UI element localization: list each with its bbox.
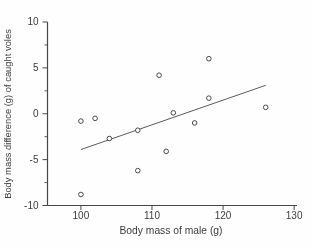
data-point bbox=[135, 168, 140, 173]
data-point-group bbox=[79, 56, 268, 196]
y-tick-label: 5 bbox=[33, 62, 39, 73]
data-point bbox=[171, 111, 176, 116]
data-point bbox=[107, 136, 112, 141]
x-tick-label: 120 bbox=[215, 210, 232, 221]
data-point bbox=[157, 73, 162, 78]
y-tick-label: -10 bbox=[24, 200, 39, 211]
y-tick-label: -5 bbox=[30, 154, 39, 165]
axis-tick-labels: 1050-5-10100110120130 bbox=[24, 16, 303, 221]
data-point bbox=[135, 128, 140, 133]
data-point bbox=[93, 116, 98, 121]
x-tick-label: 110 bbox=[144, 210, 160, 221]
data-point bbox=[192, 121, 197, 126]
y-tick-label: 0 bbox=[33, 108, 39, 119]
axis-ticks bbox=[43, 22, 295, 210]
data-point bbox=[79, 119, 84, 124]
data-point bbox=[207, 96, 212, 101]
scatter-figure: 1050-5-10100110120130 Body mass of male … bbox=[0, 0, 310, 247]
y-axis-label: Body mass difference (g) of caught voles bbox=[2, 29, 13, 199]
y-tick-label: 10 bbox=[27, 16, 39, 27]
x-axis-label: Body mass of male (g) bbox=[119, 225, 222, 236]
scatter-plot: 1050-5-10100110120130 Body mass of male … bbox=[0, 0, 310, 247]
x-tick-label: 100 bbox=[73, 210, 90, 221]
data-point bbox=[207, 56, 212, 61]
data-point bbox=[79, 192, 84, 197]
x-tick-label: 130 bbox=[286, 210, 303, 221]
data-point bbox=[164, 149, 169, 154]
data-point bbox=[263, 105, 268, 110]
